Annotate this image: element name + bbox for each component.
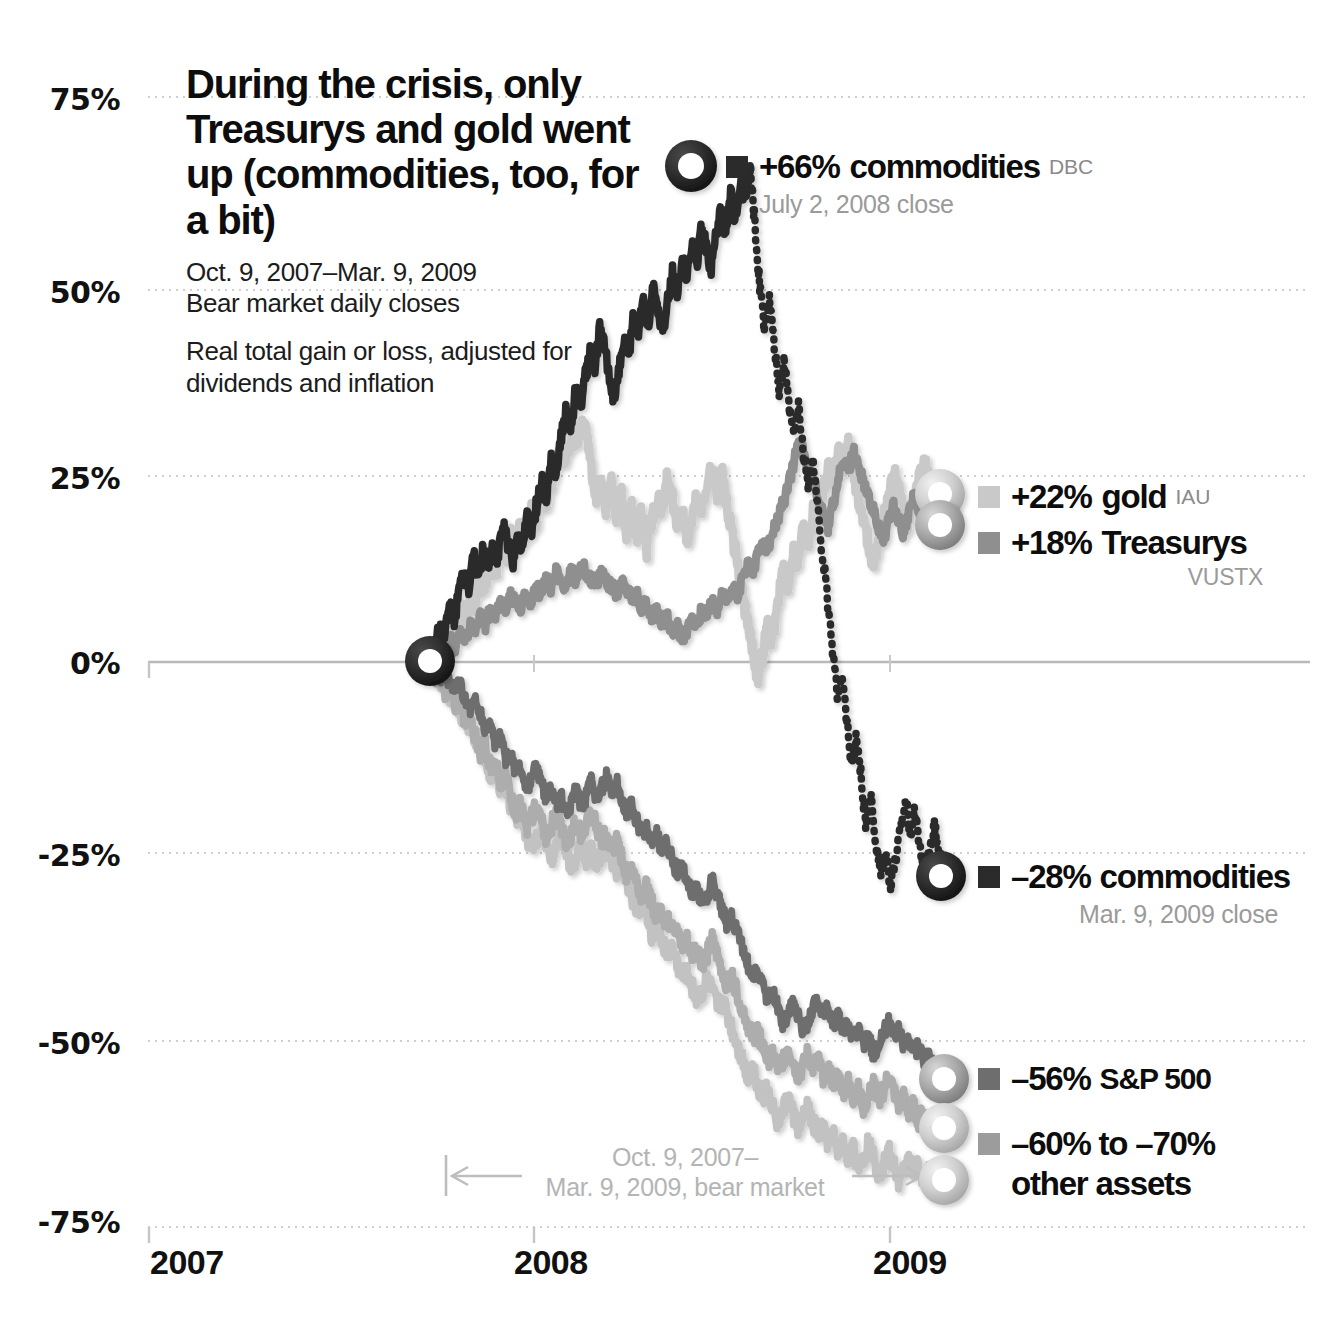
bear-market-note-line2: Mar. 9, 2009, bear market <box>470 1173 900 1203</box>
title-block: During the crisis, only Treasurys and go… <box>186 62 656 400</box>
marker-start <box>405 636 455 686</box>
commodities-end-name: commodities <box>1100 858 1290 896</box>
y-tick-neg50: -50% <box>10 1026 120 1061</box>
commodities-end-value: –28% <box>1011 858 1091 896</box>
bear-market-note: Oct. 9, 2007– Mar. 9, 2009, bear market <box>470 1143 900 1202</box>
callout-sp500: –56% S&P 500 <box>978 1060 1211 1098</box>
series-line-s-p-500 <box>430 664 944 1084</box>
series-line-other-assets-a <box>430 662 944 1139</box>
commodities-end-note: Mar. 9, 2009 close <box>978 900 1278 929</box>
swatch-gold <box>978 486 1000 508</box>
sp500-value: –56% <box>1011 1060 1091 1098</box>
treasurys-name: Treasurys <box>1102 524 1247 562</box>
callout-commodities-end: –28% commodities Mar. 9, 2009 close <box>978 858 1290 929</box>
gold-name: gold <box>1102 478 1167 516</box>
x-tick-2008: 2008 <box>514 1243 588 1282</box>
callout-treasurys: +18% Treasurys VUSTX <box>978 524 1263 591</box>
gold-ticker: IAU <box>1175 485 1210 509</box>
treasurys-ticker: VUSTX <box>978 564 1263 591</box>
swatch-commodities <box>726 156 748 178</box>
marker-treasurys <box>915 500 965 550</box>
marker-other-assets-a <box>919 1103 969 1153</box>
swatch-commodities-end <box>978 866 1000 888</box>
swatch-sp500 <box>978 1068 1000 1090</box>
chart-container: 75% 50% 25% 0% -25% -50% -75% 2007 2008 … <box>0 0 1335 1344</box>
callout-other-assets: –60% to –70% other assets <box>978 1125 1215 1203</box>
commodities-peak-note: July 2, 2008 close <box>759 190 1093 219</box>
commodities-peak-name: commodities <box>850 148 1040 186</box>
date-range-label: Oct. 9, 2007–Mar. 9, 2009 <box>186 257 656 289</box>
other-assets-name: other assets <box>1011 1165 1215 1203</box>
page-title: During the crisis, only Treasurys and go… <box>186 62 656 243</box>
swatch-other-assets <box>978 1133 1000 1155</box>
treasurys-value: +18% <box>1011 524 1092 562</box>
y-tick-neg25: -25% <box>10 838 120 873</box>
swatch-treasurys <box>978 532 1000 554</box>
marker-commodities-end <box>916 851 966 901</box>
subtitle-methodology: Real total gain or loss, adjusted for di… <box>186 336 656 399</box>
x-tick-2007: 2007 <box>150 1243 224 1282</box>
commodities-ticker: DBC <box>1049 155 1093 179</box>
x-tick-2009: 2009 <box>873 1243 947 1282</box>
marker-commodities-peak <box>665 140 717 192</box>
y-tick-0: 0% <box>10 646 120 681</box>
subtitle-closes: Bear market daily closes <box>186 288 656 320</box>
sp500-name: S&P 500 <box>1100 1062 1211 1096</box>
bear-market-note-line1: Oct. 9, 2007– <box>470 1143 900 1173</box>
callout-commodities-peak: +66% commodities DBC July 2, 2008 close <box>726 148 1093 219</box>
gold-value: +22% <box>1011 478 1092 516</box>
commodities-peak-value: +66% <box>759 148 840 186</box>
marker-other-assets-b <box>919 1155 969 1205</box>
y-tick-50: 50% <box>10 275 120 310</box>
other-assets-value: –60% to –70% <box>1011 1125 1215 1163</box>
y-tick-75: 75% <box>10 82 120 117</box>
y-tick-25: 25% <box>10 461 120 496</box>
marker-sp500 <box>919 1054 969 1104</box>
y-tick-neg75: -75% <box>10 1205 120 1240</box>
callout-gold: +22% gold IAU <box>978 478 1210 516</box>
